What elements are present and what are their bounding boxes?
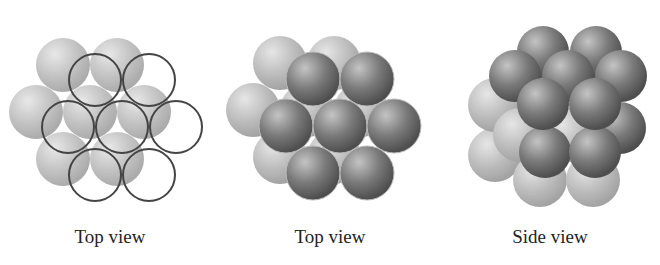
caption-top-view-1: Top view bbox=[0, 226, 220, 248]
caption-side-view: Side view bbox=[440, 226, 660, 248]
caption-top-view-2: Top view bbox=[220, 226, 440, 248]
panel-top-view-outline: Top view bbox=[0, 0, 220, 265]
panel-top-view-filled: Top view bbox=[220, 0, 440, 265]
panel-side-view: Side view bbox=[440, 0, 660, 265]
